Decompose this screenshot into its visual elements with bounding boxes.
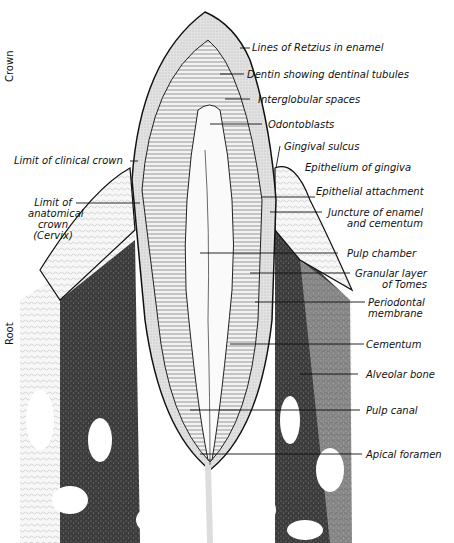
label-granular-layer-tomes: Granular layer of Tomes [355,268,427,290]
label-pulp-chamber: Pulp chamber [347,248,416,259]
label-pulp-canal: Pulp canal [366,405,418,416]
label-lines-of-retzius: Lines of Retzius in enamel [252,42,383,53]
label-odontoblasts: Odontoblasts [268,119,334,130]
label-epithelium-of-gingiva: Epithelium of gingiva [305,162,411,173]
label-periodontal-membrane: Periodontal membrane [368,297,425,319]
label-dentin: Dentin showing dentinal tubules [247,69,409,80]
label-limit-anatomical-crown: Limit of anatomical crown (Cervix) [28,197,78,241]
label-gingival-sulcus: Gingival sulcus [284,141,359,152]
label-juncture-enamel-cementum: Juncture of enamel and cementum [328,207,423,229]
label-limit-clinical-crown: Limit of clinical crown [14,155,123,166]
label-apical-foramen: Apical foramen [366,449,442,460]
label-cementum: Cementum [366,339,421,350]
region-label-root: Root [4,322,15,345]
tooth-diagram: Crown Root Limit of clinical crown Limit… [0,0,454,543]
label-interglobular-spaces: Interglobular spaces [258,94,360,105]
region-label-crown: Crown [4,50,15,82]
label-epithelial-attachment: Epithelial attachment [316,186,424,197]
label-alveolar-bone: Alveolar bone [366,369,435,380]
